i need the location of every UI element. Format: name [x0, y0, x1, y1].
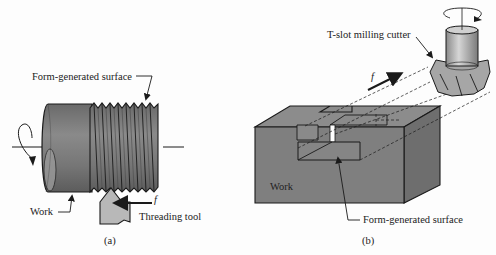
threading-tool	[100, 188, 130, 224]
label-form-surface-b: Form-generated surface	[363, 214, 463, 225]
workpiece-cylinder	[42, 104, 92, 192]
caption-a: (a)	[104, 235, 116, 247]
panel-b-milling: f T-slot milling cutter Work Form-genera…	[255, 8, 490, 247]
rotation-arrow-icon	[18, 124, 34, 160]
feed-label: f	[154, 194, 159, 205]
leader-form-surface-a	[136, 76, 152, 99]
rotation-arrowhead-icon	[29, 156, 36, 166]
panel-a-threading: f Form-generated surface Work Threading …	[12, 71, 201, 247]
caption-b: (b)	[362, 235, 375, 247]
t-slot-milling-cutter	[430, 8, 490, 96]
diagram-canvas: f Form-generated surface Work Threading …	[0, 0, 496, 255]
label-cutter: T-slot milling cutter	[327, 29, 411, 40]
label-threading-tool: Threading tool	[139, 211, 201, 222]
label-form-surface-a: Form-generated surface	[32, 71, 132, 82]
leader-work-a	[58, 196, 72, 212]
leader-cutter	[416, 37, 432, 57]
label-work-b: Work	[270, 181, 294, 192]
feed-label-b: f	[371, 71, 376, 82]
rotation-arrowhead-b-icon	[474, 16, 482, 22]
label-work-a: Work	[30, 206, 54, 217]
threaded-surface	[90, 103, 158, 192]
